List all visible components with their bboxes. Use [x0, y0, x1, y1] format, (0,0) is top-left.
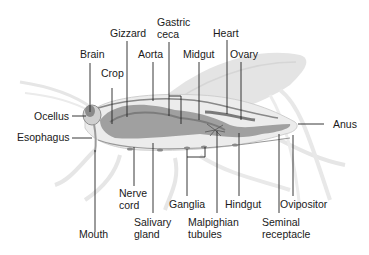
- label-brain: Brain: [80, 49, 105, 60]
- label-esophagus: Esophagus: [17, 132, 70, 143]
- label-nerve-cord-line1: Nerve: [119, 188, 147, 199]
- label-seminal-receptacle-line1: Seminal: [262, 217, 300, 228]
- label-crop: Crop: [101, 68, 124, 79]
- label-ovipositor: Ovipositor: [280, 199, 327, 210]
- label-gastric-ceca-line2: ceca: [157, 29, 179, 40]
- label-ocellus: Ocellus: [34, 111, 69, 122]
- label-heart: Heart: [213, 28, 239, 39]
- label-malpighian-tubules-line2: tubules: [188, 229, 222, 240]
- label-midgut: Midgut: [183, 49, 215, 60]
- label-gastric-ceca-line1: Gastric: [157, 17, 190, 28]
- label-hindgut: Hindgut: [225, 199, 261, 210]
- label-mouth: Mouth: [79, 229, 108, 240]
- cockroach-illustration: [0, 0, 369, 255]
- label-seminal-receptacle-line2: receptacle: [262, 229, 310, 240]
- label-salivary-gland-line1: Salivary: [134, 217, 171, 228]
- label-aorta: Aorta: [138, 49, 163, 60]
- label-gizzard: Gizzard: [110, 28, 146, 39]
- label-malpighian-tubules-line1: Malpighian: [188, 217, 239, 228]
- label-nerve-cord-line2: cord: [119, 200, 139, 211]
- cockroach-anatomy-diagram: Gizzard Gastric ceca Heart Brain Aorta M…: [0, 0, 369, 255]
- label-ganglia: Ganglia: [169, 199, 205, 210]
- label-ovary: Ovary: [230, 49, 258, 60]
- label-anus: Anus: [333, 119, 357, 130]
- label-salivary-gland-line2: gland: [134, 229, 160, 240]
